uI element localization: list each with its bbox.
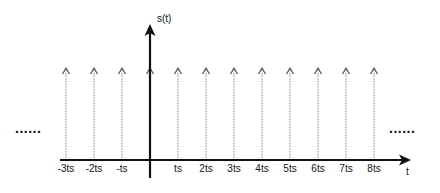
tick-label: ts: [174, 163, 182, 174]
y-axis-label: s(t): [157, 13, 171, 24]
x-axis-label: t: [406, 166, 409, 177]
tick-label: 6ts: [311, 163, 324, 174]
tick-label: -3ts: [58, 163, 75, 174]
tick-label: -ts: [116, 163, 127, 174]
impulse-train-diagram: -3ts-2ts-tsts2ts3ts4ts5ts6ts7ts8ts s(t) …: [0, 0, 440, 193]
tick-label: 4ts: [255, 163, 268, 174]
impulse-group: [63, 68, 378, 160]
ellipsis-left: ......: [15, 120, 41, 136]
tick-label: 8ts: [367, 163, 380, 174]
tick-label: 3ts: [227, 163, 240, 174]
tick-label: 5ts: [283, 163, 296, 174]
ellipsis-right: ......: [389, 120, 415, 136]
tick-label: 2ts: [199, 163, 212, 174]
tick-label: -2ts: [86, 163, 103, 174]
tick-label-group: -3ts-2ts-tsts2ts3ts4ts5ts6ts7ts8ts: [58, 163, 381, 174]
tick-label: 7ts: [339, 163, 352, 174]
